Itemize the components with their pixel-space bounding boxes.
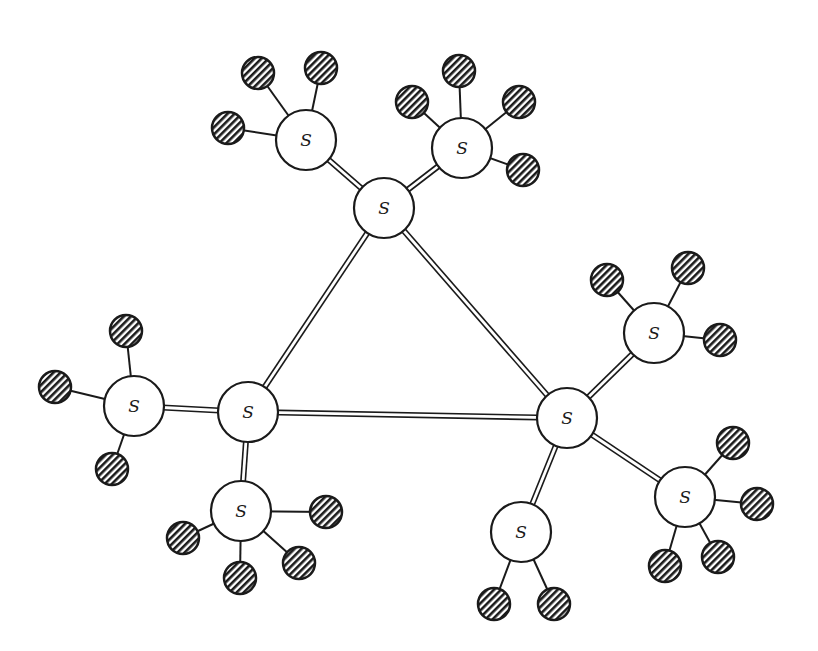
hatched-atom	[478, 588, 510, 620]
hatched-atom	[39, 371, 71, 403]
hatched-atom	[717, 427, 749, 459]
atom-label: S	[235, 501, 247, 521]
hatched-atom	[538, 588, 570, 620]
hatched-atom	[649, 550, 681, 582]
sulfur-atoms: SSSSSSSSSS	[104, 110, 715, 562]
hatched-atom	[507, 154, 539, 186]
sulfur-atom-s10: S	[491, 502, 551, 562]
hatched-atom	[305, 52, 337, 84]
hatched-atom	[503, 86, 535, 118]
sulfur-atom-s2: S	[218, 382, 278, 442]
hatched-atom	[212, 112, 244, 144]
hatched-atom	[672, 252, 704, 284]
atom-label: S	[561, 408, 573, 428]
hatched-atom	[396, 86, 428, 118]
molecule-diagram: SSSSSSSSSS	[0, 0, 818, 651]
atom-label: S	[378, 198, 390, 218]
sulfur-atom-s9: S	[655, 467, 715, 527]
atom-label: S	[648, 323, 660, 343]
double-bond-line	[382, 209, 565, 419]
hatched-atom	[167, 522, 199, 554]
hatched-atom	[704, 324, 736, 356]
hatched-atom	[310, 496, 342, 528]
sulfur-atom-s6: S	[104, 376, 164, 436]
sulfur-atom-s3: S	[537, 388, 597, 448]
sulfur-atom-s7: S	[211, 481, 271, 541]
sulfur-atom-s1: S	[354, 178, 414, 238]
atom-label: S	[679, 487, 691, 507]
hatched-atom	[741, 488, 773, 520]
sulfur-atom-s4: S	[276, 110, 336, 170]
hatched-atom	[96, 453, 128, 485]
atom-label: S	[242, 402, 254, 422]
hatched-atom	[283, 547, 315, 579]
sulfur-atom-s8: S	[624, 303, 684, 363]
double-bond-line	[386, 207, 569, 417]
atom-label: S	[515, 522, 527, 542]
hatched-atom	[242, 57, 274, 89]
hatched-atom	[443, 55, 475, 87]
double-bond-line	[246, 207, 382, 411]
atom-label: S	[456, 138, 468, 158]
atom-label: S	[128, 396, 140, 416]
atom-label: S	[300, 130, 312, 150]
double-bond-line	[250, 209, 386, 413]
hatched-atom	[591, 264, 623, 296]
hatched-atom	[702, 541, 734, 573]
hatched-atom	[110, 315, 142, 347]
sulfur-atom-s5: S	[432, 118, 492, 178]
hatched-atom	[224, 562, 256, 594]
